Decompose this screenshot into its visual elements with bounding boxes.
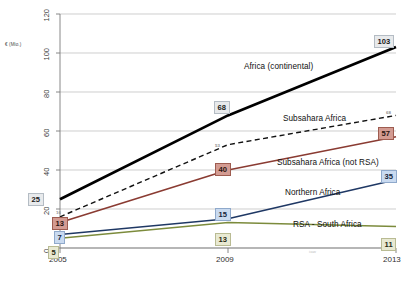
x-axis: [60, 248, 396, 253]
data-label-subsahara-2009: 53: [215, 143, 220, 148]
y-tick-label-40: 40: [40, 165, 53, 174]
series-annotation-northern-africa: Northern Africa: [285, 188, 340, 197]
y-axis-title-text: € (Mio.): [5, 42, 21, 47]
data-label-africa-2013: 103: [374, 35, 394, 48]
y-tick-label-80: 80: [40, 87, 53, 96]
series-annotation-africa-continental: Africa (continental): [244, 62, 313, 71]
series-annotation-subsahara-africa: Subsahara Africa: [283, 114, 346, 123]
data-label-rsa-2013: 11: [381, 238, 396, 251]
data-label-subsahara-notrsa-2005: 13: [52, 217, 68, 230]
line-chart: € (Mio.) 120 100 80 60 40 20 0 2005 2009…: [0, 0, 410, 287]
x-tick-label-2009: 2009: [216, 255, 234, 264]
y-tick-label-120: 120: [38, 9, 54, 18]
y-axis-title: € (Mio.): [5, 42, 21, 47]
series-annotation-rsa-south-africa: RSA - South Africa: [293, 220, 362, 229]
data-label-northern-2009: 15: [215, 208, 231, 221]
data-label-africa-2005: 25: [28, 193, 44, 206]
y-tick-label-100: 100: [38, 48, 54, 57]
data-label-africa-2009: 68: [214, 101, 230, 114]
data-label-northern-2005: 7: [54, 231, 65, 244]
data-label-northern-2013: 35: [381, 170, 397, 183]
data-label-subsahara-notrsa-2009: 40: [215, 163, 231, 176]
x-tick-label-2013: 2013: [383, 255, 401, 264]
series-annotation-subsahara-africa-not-rsa: Subsahara Africa (not RSA): [277, 158, 379, 167]
watermark-text: iaw: [309, 249, 316, 254]
data-label-subsahara-notrsa-2013: 57: [378, 127, 394, 140]
series-line-africa-continental: [60, 47, 396, 199]
data-label-rsa-2005: 5: [48, 246, 59, 259]
data-label-subsahara-2013: 68: [386, 110, 391, 115]
y-tick-label-60: 60: [40, 126, 53, 135]
data-label-rsa-2009: 13: [215, 233, 231, 246]
data-label-subsahara-2005: 16: [56, 210, 61, 215]
